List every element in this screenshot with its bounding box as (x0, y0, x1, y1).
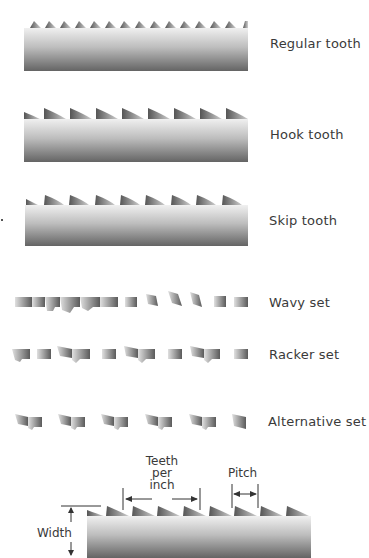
wavy-set-teeth (15, 291, 248, 313)
label-skip-tooth: Skip tooth (269, 213, 337, 228)
label-teeth-per-inch: Teeth per inch (140, 455, 184, 491)
racker-set-teeth (12, 346, 248, 363)
dimension-blade (87, 506, 311, 558)
hook-tooth-blade (24, 108, 248, 162)
label-wavy-set: Wavy set (269, 295, 330, 310)
label-racker-set: Racker set (269, 347, 339, 362)
alternative-set-teeth (15, 414, 246, 430)
saw-blade-diagram (0, 0, 369, 558)
skip-tooth-blade (1, 195, 248, 246)
label-inch: inch (140, 479, 184, 491)
label-regular-tooth: Regular tooth (270, 36, 361, 51)
regular-tooth-blade (24, 21, 248, 71)
label-pitch: Pitch (228, 467, 257, 479)
label-hook-tooth: Hook tooth (270, 127, 344, 142)
label-width: Width (37, 527, 72, 539)
label-alternative-set: Alternative set (268, 414, 366, 429)
